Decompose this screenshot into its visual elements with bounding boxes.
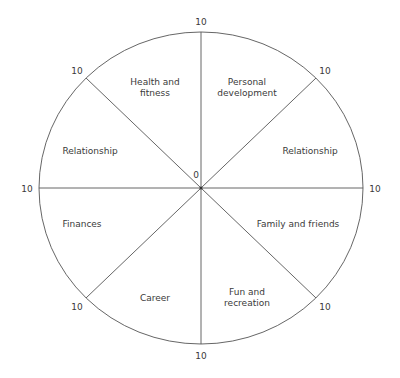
segment-label-line: Relationship [62, 146, 117, 157]
tick-right: 10 [369, 184, 380, 194]
segment-relationship-left: Relationship [62, 146, 117, 157]
tick-top-right: 10 [319, 66, 330, 76]
center-dot [200, 187, 203, 190]
segment-label-line: Relationship [282, 146, 337, 157]
segment-health-and-fitness: Health and fitness [130, 77, 179, 99]
tick-left: 10 [21, 184, 32, 194]
segment-finances: Finances [62, 219, 101, 230]
segment-label-line: Family and friends [257, 219, 340, 230]
tick-top-left: 10 [71, 66, 82, 76]
wheel-diagram [0, 0, 400, 378]
segment-label-line: Personal [217, 77, 276, 88]
tick-bottom: 10 [195, 351, 206, 361]
segment-label-line: Health and [130, 77, 179, 88]
segment-label-line: recreation [224, 298, 270, 309]
segment-label-line: Career [140, 293, 170, 304]
segment-family-and-friends: Family and friends [257, 219, 340, 230]
segment-relationship-right: Relationship [282, 146, 337, 157]
tick-bottom-left: 10 [71, 302, 82, 312]
segment-label-line: fitness [130, 88, 179, 99]
tick-top: 10 [195, 17, 206, 27]
segment-label-line: Finances [62, 219, 101, 230]
segment-label-line: Fun and [224, 287, 270, 298]
tick-bottom-right: 10 [319, 302, 330, 312]
segment-fun-and-recreation: Fun and recreation [224, 287, 270, 309]
segment-career: Career [140, 293, 170, 304]
segment-label-line: development [217, 88, 276, 99]
segment-personal-development: Personal development [217, 77, 276, 99]
center-zero-label: 0 [193, 170, 199, 180]
